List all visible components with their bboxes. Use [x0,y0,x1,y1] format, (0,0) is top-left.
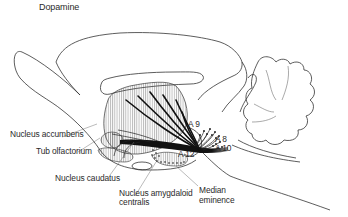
label-a12: A 12 [178,150,194,159]
label-eminence: eminence [199,196,235,205]
figure-title: Dopamine [39,3,79,12]
label-nucleus-caudatus: Nucleus caudatus [55,174,120,183]
label-tub-olfactorium: Tub olfactorium [36,147,92,156]
brainstem-outline [232,145,300,162]
label-centralis: centralis [119,198,149,207]
cerebellum-outline [244,57,315,145]
label-median: Median [199,186,226,195]
nucleus-accumbens-region [101,132,123,148]
cortex-outline [56,33,242,76]
label-nucleus-accumbens: Nucleus accumbens [10,130,84,139]
dopamine-pathway-diagram: Dopamine Nucleus accumbens Tub olfactori… [0,0,348,217]
brain-drawing [0,0,348,217]
label-a10: A 10 [215,144,231,153]
label-a9: A 9 [188,120,200,129]
leader-median-eminence [176,166,198,186]
